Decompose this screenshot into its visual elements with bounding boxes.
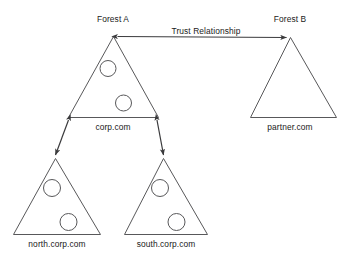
north-child-triangle (14, 159, 101, 235)
partner-com-label: partner.com (267, 123, 312, 131)
south-corp-com-triangle (125, 159, 208, 235)
domain-controller-icon (152, 180, 169, 197)
forest-b-heading: Forest B (274, 15, 306, 23)
domain-controller-icon (44, 180, 61, 197)
domain-controller-icon (100, 61, 116, 77)
forest-a-heading: Forest A (97, 15, 129, 23)
partner-com-triangle (251, 38, 337, 118)
corp-com-triangle (69, 37, 159, 118)
north-corp-com-label: north.corp.com (28, 240, 85, 248)
trust-relationship-diagram: Forest A Forest B Trust Relationship cor… (0, 0, 345, 262)
domain-controller-icon (60, 214, 77, 231)
domain-controller-icon (116, 95, 132, 111)
forest-b-root-triangle (251, 38, 337, 118)
forest-a-root-triangle (69, 37, 159, 118)
corp-com-label: corp.com (95, 123, 130, 131)
south-corp-com-label: south.corp.com (137, 240, 196, 248)
north-corp-com-triangle (14, 159, 101, 235)
domain-controller-icon (168, 214, 185, 231)
trust-relationship-arrow (118, 37, 287, 38)
south-child-triangle (125, 159, 208, 235)
corp-to-north-arrow (56, 120, 69, 155)
trust-relationship-label: Trust Relationship (172, 27, 241, 35)
corp-to-south-arrow (157, 120, 164, 155)
